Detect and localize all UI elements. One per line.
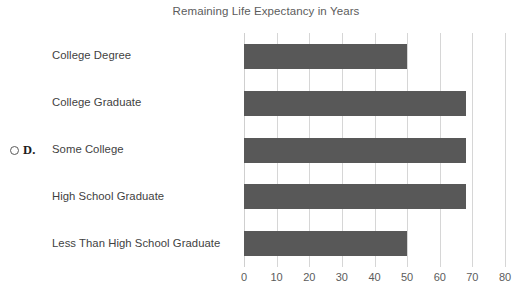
bar-chart: Remaining Life Expectancy in Years Colle… <box>0 0 532 304</box>
category-label: High School Graduate <box>52 191 164 202</box>
gridline-80 <box>505 33 506 267</box>
x-tick-label: 60 <box>434 272 446 283</box>
chart-screenshot: D. Remaining Life Expectancy in Years Co… <box>0 0 532 304</box>
bar <box>244 44 407 69</box>
bar-series <box>244 33 505 267</box>
category-label: College Graduate <box>52 97 141 108</box>
x-axis-tick-labels: 01020304050607080 <box>244 272 505 292</box>
bar <box>244 138 466 163</box>
category-label: Some College <box>52 144 124 155</box>
x-tick-label: 0 <box>241 272 247 283</box>
bar <box>244 184 466 209</box>
x-tick-label: 20 <box>303 272 315 283</box>
plot-area <box>244 33 505 267</box>
category-label: College Degree <box>52 50 131 61</box>
category-label: Less Than High School Graduate <box>52 238 220 249</box>
x-tick-label: 80 <box>499 272 511 283</box>
category-axis-labels: College DegreeCollege GraduateSome Colle… <box>0 33 244 267</box>
bar <box>244 231 407 256</box>
x-tick-label: 10 <box>271 272 283 283</box>
chart-title: Remaining Life Expectancy in Years <box>0 5 532 17</box>
bar <box>244 91 466 116</box>
x-tick-label: 50 <box>401 272 413 283</box>
x-tick-label: 70 <box>466 272 478 283</box>
x-tick-label: 40 <box>368 272 380 283</box>
x-tick-label: 30 <box>336 272 348 283</box>
